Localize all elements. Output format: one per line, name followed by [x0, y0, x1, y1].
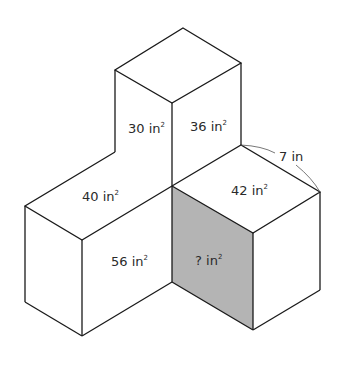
cuboid-diagram: 30 in2 36 in2 40 in2 42 in2 56 in2 ? in2…: [0, 0, 340, 380]
top-box: [115, 28, 241, 186]
dimension-label: 7 in: [279, 149, 303, 164]
left-box: [25, 152, 172, 336]
face-label-40: 40 in2: [82, 189, 119, 204]
face-label-56: 56 in2: [111, 254, 148, 269]
face-label-36: 36 in2: [190, 119, 227, 134]
face-label-30: 30 in2: [128, 121, 165, 136]
face-label-42: 42 in2: [231, 183, 268, 198]
